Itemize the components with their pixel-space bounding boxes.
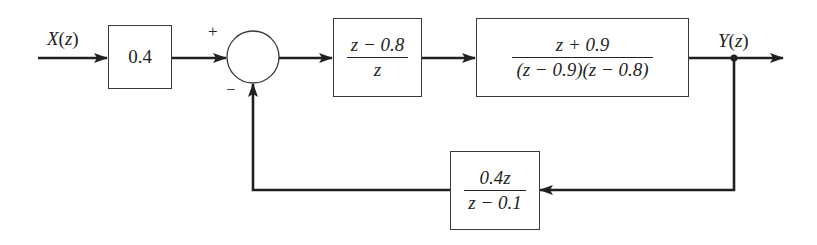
input-label: X(z) [47, 28, 79, 50]
controller-denominator: z [370, 58, 385, 81]
output-arg: z [735, 30, 742, 51]
controller-block: z − 0.8 z [333, 18, 422, 97]
controller-numerator: z − 0.8 [347, 34, 408, 57]
output-var: Y [718, 30, 729, 51]
summing-junction [227, 31, 279, 83]
feedback-transfer-function: 0.4z z − 0.1 [464, 167, 525, 214]
feedback-path-left [253, 84, 450, 190]
gain-block: 0.4 [108, 25, 172, 89]
input-var: X [47, 28, 59, 49]
output-label: Y(z) [718, 30, 749, 52]
minus-sign: − [226, 80, 236, 100]
plant-block: z + 0.9 (z − 0.9)(z − 0.8) [476, 18, 689, 97]
plant-denominator: (z − 0.9)(z − 0.8) [512, 58, 652, 81]
controller-transfer-function: z − 0.8 z [347, 34, 408, 81]
plant-numerator: z + 0.9 [552, 34, 613, 57]
feedback-denominator: z − 0.1 [464, 191, 525, 214]
plus-sign: + [208, 22, 218, 42]
feedback-numerator: 0.4z [475, 167, 514, 190]
feedback-block: 0.4z z − 0.1 [450, 151, 540, 230]
input-arg: z [65, 28, 72, 49]
plant-transfer-function: z + 0.9 (z − 0.9)(z − 0.8) [512, 34, 652, 81]
gain-value: 0.4 [128, 46, 152, 68]
